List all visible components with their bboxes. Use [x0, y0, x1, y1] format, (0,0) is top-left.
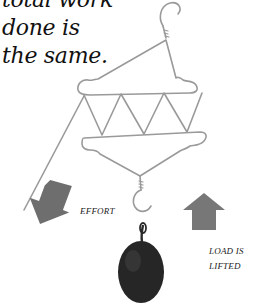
- weight-icon: [118, 223, 164, 303]
- lower-hanger-icon: [82, 132, 206, 176]
- effort-label: EFFORT: [80, 204, 115, 219]
- zigzag-wires-icon: [84, 93, 202, 135]
- top-hook-icon: [160, 3, 180, 38]
- load-arrow-icon: [183, 193, 225, 230]
- lower-hook-icon: [133, 176, 151, 211]
- effort-arrow-icon: [28, 178, 75, 225]
- load-label-line-1: LOAD IS: [209, 244, 244, 259]
- upper-hanger-icon: [78, 40, 197, 95]
- load-label: LOAD IS LIFTED: [209, 244, 244, 274]
- load-label-line-2: LIFTED: [209, 259, 244, 274]
